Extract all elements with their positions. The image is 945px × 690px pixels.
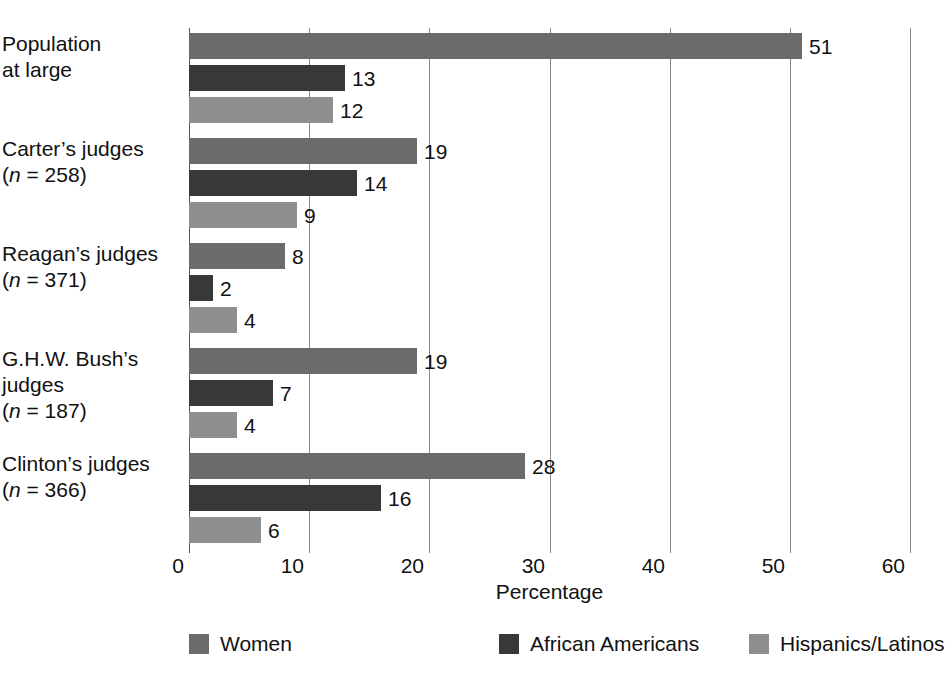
legend-label: Women <box>220 631 292 657</box>
category-label: Reagan’s judges(n = 371) <box>2 241 182 293</box>
bar-value-label: 4 <box>244 412 256 438</box>
bar-value-label: 16 <box>388 485 411 511</box>
plot-area: 51131219149824197428166 <box>189 28 910 553</box>
x-axis-tick-labels: 0102030405060 <box>189 553 910 583</box>
category-label: Clinton’s judges(n = 366) <box>2 451 182 503</box>
legend-label: African Americans <box>530 631 699 657</box>
category-label-line: Population <box>2 31 182 57</box>
bar <box>189 485 381 511</box>
x-tick-30: 30 <box>522 553 550 579</box>
category-axis-labels: Populationat largeCarter’s judges(n = 25… <box>10 28 182 553</box>
category-label-line: judges <box>2 372 182 398</box>
bar <box>189 307 237 333</box>
category-label-line: Carter’s judges <box>2 136 182 162</box>
bar-value-label: 4 <box>244 307 256 333</box>
legend-swatch-icon <box>499 634 519 654</box>
x-tick-40: 40 <box>642 553 670 579</box>
bar-value-label: 19 <box>424 138 447 164</box>
x-tick-10: 10 <box>281 553 309 579</box>
x-tick-60: 60 <box>882 553 910 579</box>
gridline-50 <box>790 28 791 553</box>
category-label: Carter’s judges(n = 258) <box>2 136 182 188</box>
chart-legend: WomenAfrican AmericansHispanics/Latinos <box>189 631 910 665</box>
x-tick-0: 0 <box>172 553 189 579</box>
bar-value-label: 9 <box>304 202 316 228</box>
bar <box>189 243 285 269</box>
bar <box>189 348 417 374</box>
bar <box>189 65 345 91</box>
category-label-line: at large <box>2 57 182 83</box>
legend-item[interactable]: African Americans <box>499 631 699 657</box>
bar-value-label: 51 <box>809 33 832 59</box>
legend-item[interactable]: Hispanics/Latinos <box>749 631 945 657</box>
category-sample-size: (n = 187) <box>2 398 182 424</box>
category-label-line: Reagan’s judges <box>2 241 182 267</box>
category-sample-size: (n = 371) <box>2 267 182 293</box>
bar <box>189 138 417 164</box>
bar-value-label: 6 <box>268 517 280 543</box>
category-sample-size: (n = 258) <box>2 162 182 188</box>
bar <box>189 97 333 123</box>
x-tick-20: 20 <box>401 553 429 579</box>
bar <box>189 33 802 59</box>
bar <box>189 380 273 406</box>
bar-value-label: 14 <box>364 170 387 196</box>
x-axis-title: Percentage <box>189 580 910 604</box>
category-label-line: G.H.W. Bush’s <box>2 346 182 372</box>
category-sample-size: (n = 366) <box>2 477 182 503</box>
category-label-line: Clinton’s judges <box>2 451 182 477</box>
bar-value-label: 7 <box>280 380 292 406</box>
bar-value-label: 28 <box>532 453 555 479</box>
x-tick-50: 50 <box>762 553 790 579</box>
gridline-40 <box>670 28 671 553</box>
bar <box>189 412 237 438</box>
bar-value-label: 13 <box>352 65 375 91</box>
bar <box>189 453 525 479</box>
bar <box>189 170 357 196</box>
bar <box>189 517 261 543</box>
legend-swatch-icon <box>189 634 209 654</box>
bar <box>189 275 213 301</box>
legend-swatch-icon <box>749 634 769 654</box>
bar <box>189 202 297 228</box>
bar-value-label: 12 <box>340 97 363 123</box>
bar-value-label: 19 <box>424 348 447 374</box>
legend-label: Hispanics/Latinos <box>780 631 945 657</box>
bar-value-label: 2 <box>220 275 232 301</box>
category-label: Populationat large <box>2 31 182 83</box>
bar-value-label: 8 <box>292 243 304 269</box>
gridline-60 <box>910 28 911 553</box>
category-label: G.H.W. Bush’sjudges(n = 187) <box>2 346 182 424</box>
legend-item[interactable]: Women <box>189 631 292 657</box>
